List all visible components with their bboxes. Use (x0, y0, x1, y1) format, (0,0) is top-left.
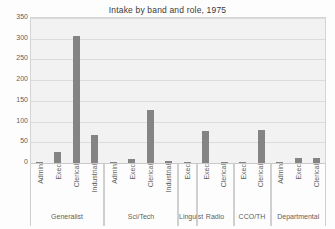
role-label: Admin (37, 164, 44, 185)
category-group-linguist: ExecLinguist (178, 164, 197, 226)
role-label: Industrial (165, 164, 172, 193)
y-axis-tick-label: 350 (4, 13, 28, 20)
role-label: Exec (184, 164, 191, 181)
bar-slot (104, 17, 123, 163)
role-label-cell: Exec (123, 164, 141, 206)
category-group-sci-tech: AdminExecClericalIndustrialSci/Tech (104, 164, 178, 226)
bar-group-sci-tech (104, 17, 178, 163)
bar[interactable] (295, 158, 302, 163)
bar-slot (141, 17, 160, 163)
bar[interactable] (202, 131, 209, 163)
role-label-cell: Exec (179, 164, 196, 206)
bar[interactable] (313, 158, 320, 163)
role-label-row: ExecClerical (235, 164, 270, 206)
role-label: Admin (277, 164, 284, 185)
role-label-row: AdminExecClerical (272, 164, 326, 206)
chart-container: Intake by band and role, 1975 0501001502… (0, 0, 335, 229)
band-label: Generalist (31, 213, 103, 220)
bar[interactable] (128, 159, 135, 163)
role-label: Exec (295, 164, 302, 181)
band-label: Departmental (272, 213, 326, 220)
role-label-cell: Exec (289, 164, 307, 206)
role-label-cell: Admin (31, 164, 49, 206)
role-label: Clerical (257, 164, 264, 188)
role-label-row: AdminExecClericalIndustrial (31, 164, 103, 206)
bar[interactable] (165, 161, 172, 163)
bar-group-cco-th (234, 17, 271, 163)
bar-slot (67, 17, 86, 163)
category-axis: AdminExecClericalIndustrialGeneralistAdm… (30, 164, 326, 226)
role-label: Clerical (220, 164, 227, 188)
band-label: Radio (198, 213, 233, 220)
role-label-cell: Clerical (141, 164, 159, 206)
bar-slot (215, 17, 234, 163)
bars-layer (30, 17, 326, 163)
bar[interactable] (73, 36, 80, 163)
bar[interactable] (147, 110, 154, 163)
role-label: Clerical (73, 164, 80, 188)
role-label-cell: Admin (272, 164, 290, 206)
category-group-departmental: AdminExecClericalDepartmental (271, 164, 327, 226)
bar-slot (234, 17, 253, 163)
bar[interactable] (54, 152, 61, 163)
category-group-radio: ExecClericalRadio (197, 164, 234, 226)
bar[interactable] (276, 162, 283, 163)
role-label: Exec (129, 164, 136, 181)
role-label: Exec (240, 164, 247, 181)
role-label-row: Exec (179, 164, 196, 206)
y-axis-tick-label: 300 (4, 34, 28, 41)
bar-slot (252, 17, 271, 163)
role-label: Admin (111, 164, 118, 185)
bar[interactable] (36, 162, 43, 163)
bar-slot (197, 17, 216, 163)
role-label-cell: Clerical (67, 164, 85, 206)
bar-slot (86, 17, 105, 163)
bar-slot (123, 17, 142, 163)
bar[interactable] (91, 135, 98, 163)
band-label: CCO/TH (235, 213, 270, 220)
role-label-cell: Admin (105, 164, 123, 206)
role-label-cell: Industrial (159, 164, 177, 206)
y-axis-tick-label: 150 (4, 96, 28, 103)
role-label: Exec (203, 164, 210, 181)
bar-group-generalist (30, 17, 104, 163)
bar-slot (178, 17, 197, 163)
role-label-cell: Industrial (85, 164, 103, 206)
band-label: Sci/Tech (105, 213, 177, 220)
bar-group-linguist (178, 17, 197, 163)
role-label-cell: Clerical (307, 164, 325, 206)
bar-group-departmental (271, 17, 327, 163)
role-label-cell: Clerical (215, 164, 233, 206)
role-label: Clerical (313, 164, 320, 188)
bar-slot (160, 17, 179, 163)
chart-title: Intake by band and role, 1975 (0, 5, 335, 15)
role-label-row: AdminExecClericalIndustrial (105, 164, 177, 206)
bar[interactable] (258, 130, 265, 163)
role-label: Industrial (91, 164, 98, 193)
role-label: Clerical (147, 164, 154, 188)
bar[interactable] (110, 162, 117, 163)
bar-group-radio (197, 17, 234, 163)
bar-slot (49, 17, 68, 163)
role-label-cell: Exec (49, 164, 67, 206)
y-axis-tick-label: 200 (4, 75, 28, 82)
bar[interactable] (221, 162, 228, 163)
y-axis-tick-label: 50 (4, 137, 28, 144)
role-label-cell: Exec (198, 164, 216, 206)
role-label: Exec (55, 164, 62, 181)
y-axis-tick-label: 250 (4, 54, 28, 61)
role-label-cell: Clerical (252, 164, 270, 206)
role-label-row: ExecClerical (198, 164, 233, 206)
category-group-generalist: AdminExecClericalIndustrialGeneralist (30, 164, 104, 226)
bar-slot (308, 17, 327, 163)
bar-slot (289, 17, 308, 163)
y-axis-tick-label: 0 (4, 158, 28, 165)
category-group-cco-th: ExecClericalCCO/TH (234, 164, 271, 226)
band-label: Linguist (179, 213, 196, 220)
bar-slot (271, 17, 290, 163)
role-label-cell: Exec (235, 164, 253, 206)
y-axis-tick-label: 100 (4, 117, 28, 124)
bar-slot (30, 17, 49, 163)
